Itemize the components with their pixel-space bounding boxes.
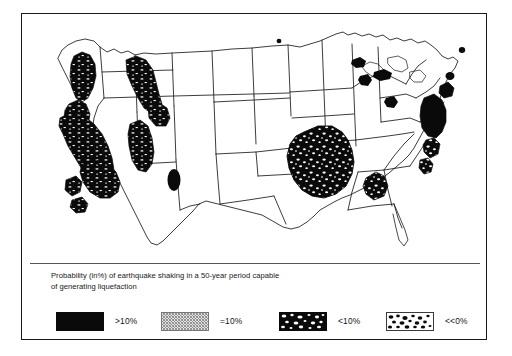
legend-label-lt-10: <10% — [338, 316, 360, 326]
hazard-zone-california — [59, 112, 120, 213]
figure-frame: Probability (in%) of earthquake shaking … — [21, 13, 487, 340]
legend-caption-line-2: of generating liquefaction — [51, 281, 451, 292]
hazard-zone-great-lakes — [351, 57, 398, 108]
legend-entry-gt-10: >10% — [56, 310, 137, 332]
state-boundaries — [58, 32, 458, 246]
hazard-zone-charleston — [363, 172, 388, 200]
legend-caption-line-1: Probability (in%) of earthquake shaking … — [51, 270, 451, 281]
legend-key: >10% =10% — [22, 310, 486, 336]
legend-entry-ll-0: <<0% — [386, 310, 468, 332]
legend-entry-eq-10: =10% — [161, 310, 242, 332]
legend-label-eq-10: =10% — [220, 316, 242, 326]
us-liquefaction-hazard-map — [22, 14, 486, 263]
legend-swatch-gt-10 — [56, 312, 104, 331]
hazard-zone-new-madrid — [287, 126, 354, 198]
hazard-zone-intermountain-north — [126, 56, 170, 126]
hazard-zone-northeast — [419, 72, 455, 174]
legend-caption: Probability (in%) of earthquake shaking … — [51, 270, 451, 293]
legend-divider — [30, 263, 480, 264]
hazard-zone-wasatch — [128, 120, 154, 172]
legend-swatch-eq-10 — [161, 312, 209, 331]
legend-swatch-ll-0 — [386, 312, 434, 331]
hazard-zone-rio-grande — [168, 169, 181, 191]
map-area — [22, 14, 486, 263]
legend-label-ll-0: <<0% — [445, 316, 468, 326]
legend-swatch-lt-10 — [279, 312, 327, 331]
legend-label-gt-10: >10% — [115, 316, 137, 326]
legend-entry-lt-10: <10% — [279, 310, 360, 332]
